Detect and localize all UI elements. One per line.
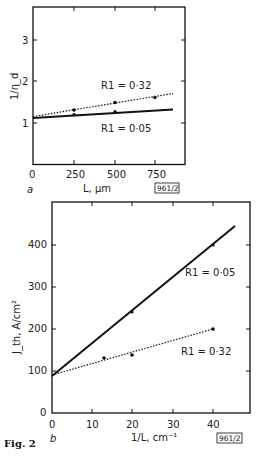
chart-b: 0 100 200 300 400 0 10 20 30 40 1/L, cm⁻… (11, 202, 250, 444)
chart-a-fit-r005 (33, 110, 173, 119)
chart-b-xlabel: 1/L, cm⁻¹ (131, 432, 177, 443)
chart-b-label-r032: R1 = 0·32 (181, 346, 231, 357)
chart-a-xtick-0: 0 (29, 169, 35, 180)
chart-b-ylabel: J_th, A/cm² (11, 300, 23, 355)
chart-b-code: 961/2 (219, 434, 241, 443)
chart-b-point (130, 353, 134, 357)
chart-a-point (113, 110, 116, 113)
chart-b-xtick-10: 10 (86, 419, 99, 430)
chart-b-point (211, 327, 215, 331)
chart-b-ytick-0: 0 (40, 407, 46, 418)
chart-a-xlabel: L, μm (83, 183, 111, 194)
chart-b-ytick-300: 300 (28, 281, 47, 292)
chart-b-point (102, 356, 106, 360)
chart-a-point (153, 96, 157, 100)
chart-a-xtick-250: 250 (66, 169, 85, 180)
chart-a-point (72, 113, 75, 116)
chart-b-xtick-40: 40 (207, 419, 220, 430)
chart-a-point (113, 101, 117, 105)
chart-b-xtick-30: 30 (167, 419, 180, 430)
chart-a-xtick-500: 500 (107, 169, 126, 180)
chart-a-code: 961/2 (157, 184, 179, 193)
chart-b-label-r005: R1 = 0·05 (185, 267, 235, 278)
chart-a: 1 2 3 0 250 500 750 L, μm a 1/η_d 961/2 … (9, 7, 185, 195)
chart-b-point (211, 243, 214, 246)
figure-caption: Fig. 2 (4, 438, 36, 449)
chart-a-ytick-2: 2 (22, 76, 28, 87)
chart-a-xtick-750: 750 (147, 169, 166, 180)
figure-canvas: 1 2 3 0 250 500 750 L, μm a 1/η_d 961/2 … (0, 0, 260, 457)
chart-b-ytick-200: 200 (28, 323, 47, 334)
chart-b-point (130, 310, 133, 313)
chart-a-label-r005: R1 = 0·05 (101, 123, 151, 134)
chart-a-ylabel: 1/η_d (9, 73, 21, 100)
chart-a-panel-label: a (27, 184, 33, 195)
chart-a-label-r032: R1 = 0·32 (101, 80, 151, 91)
chart-b-frame (52, 202, 250, 413)
chart-b-ytick-100: 100 (28, 365, 47, 376)
chart-b-xtick-20: 20 (126, 419, 139, 430)
chart-b-ytick-400: 400 (28, 239, 47, 250)
chart-a-point (72, 108, 76, 112)
chart-a-ytick-1: 1 (22, 118, 28, 129)
chart-b-panel-label: b (50, 433, 56, 444)
chart-b-xtick-0: 0 (49, 419, 55, 430)
chart-a-ytick-3: 3 (22, 35, 28, 46)
chart-b-ticks (52, 202, 250, 413)
